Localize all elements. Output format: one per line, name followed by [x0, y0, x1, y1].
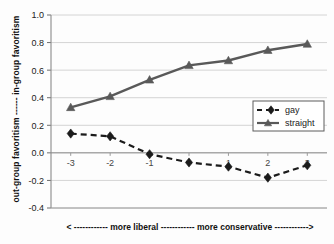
data-point-marker-diamond — [264, 173, 271, 182]
y-tick-label: 0.4 — [31, 93, 44, 103]
y-tick-label: 0.8 — [31, 38, 44, 48]
y-tick-label: 0.2 — [31, 121, 44, 131]
chart-legend: gaystraight — [253, 101, 324, 131]
legend-label-straight: straight — [285, 118, 315, 128]
x-tick-label: 2 — [265, 158, 270, 168]
chart-container: out-group favoritism ------ in-group fav… — [0, 0, 334, 244]
plot-area: 1.00.80.60.40.20.0-0.2-0.4 -3-2-1123 gay… — [0, 0, 334, 244]
data-point-marker-diamond — [185, 158, 192, 167]
y-tick-label: -0.2 — [28, 176, 44, 186]
y-tick-labels-group: 1.00.80.60.40.20.0-0.2-0.4 — [28, 10, 44, 213]
data-point-marker-diamond — [107, 132, 114, 141]
x-tick-label: -3 — [67, 158, 75, 168]
data-point-marker-diamond — [67, 129, 74, 138]
y-tick-label: 0.6 — [31, 66, 44, 76]
x-tick-label: -1 — [146, 158, 154, 168]
x-tick-label: -2 — [106, 158, 114, 168]
y-tick-label: 1.0 — [31, 10, 44, 20]
legend-label-gay: gay — [285, 105, 300, 115]
y-tick-label: 0.0 — [31, 148, 44, 158]
y-tick-label: -0.4 — [28, 203, 44, 213]
